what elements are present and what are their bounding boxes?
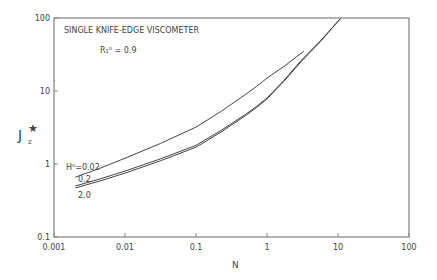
axis-ticks: 0.0010.010.11101000.1110100 [35, 14, 417, 252]
svg-text:100: 100 [401, 243, 416, 252]
svg-text:z: z [28, 138, 32, 146]
chart-title: SINGLE KNIFE-EDGE VISCOMETER [64, 26, 200, 35]
svg-text:J: J [17, 127, 22, 143]
svg-text:0.1: 0.1 [37, 233, 50, 242]
x-axis-label: N [232, 260, 239, 270]
svg-text:100: 100 [35, 14, 50, 23]
svg-text:0.001: 0.001 [43, 243, 66, 252]
y-axis-label: J z ★ [17, 122, 38, 146]
svg-text:0.01: 0.01 [116, 243, 134, 252]
label-h002: H⁰=0.02 [66, 163, 100, 172]
svg-text:1: 1 [264, 243, 269, 252]
svg-text:10: 10 [333, 243, 343, 252]
svg-text:0.1: 0.1 [190, 243, 203, 252]
label-h02: 0.2 [78, 175, 91, 184]
annotation-r: R₁⁰ = 0.9 [100, 46, 136, 55]
svg-text:10: 10 [40, 87, 50, 96]
chart: 0.0010.010.11101000.1110100 SINGLE KNIFE… [0, 0, 437, 280]
data-curves [75, 18, 341, 188]
label-h20: 2.0 [78, 191, 91, 200]
svg-text:1: 1 [45, 160, 50, 169]
star-icon: ★ [28, 122, 38, 135]
